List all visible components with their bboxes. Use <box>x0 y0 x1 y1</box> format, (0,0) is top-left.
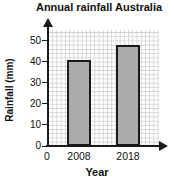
plot-area <box>48 30 159 146</box>
y-tick-label: 0 <box>13 140 41 152</box>
y-axis-arrow-icon <box>43 18 53 27</box>
bar-2008 <box>67 60 91 146</box>
y-tick-label: 10 <box>13 119 41 131</box>
x-origin-tick-label: 0 <box>40 150 54 162</box>
x-tick-label-2008: 2008 <box>59 150 99 162</box>
x-axis-label: Year <box>47 166 147 178</box>
x-tick-label-2018: 2018 <box>108 150 148 162</box>
annual-rainfall-bar-chart: Annual rainfall Australia Rainfall (mm) … <box>0 0 174 187</box>
y-tick-mark <box>42 82 47 83</box>
y-tick-mark <box>42 103 47 104</box>
y-tick-label: 50 <box>13 35 41 47</box>
y-axis-line <box>47 24 49 147</box>
x-axis-arrow-icon <box>159 141 168 151</box>
x-axis-line <box>46 145 160 147</box>
chart-title: Annual rainfall Australia <box>24 1 174 13</box>
y-tick-label: 30 <box>13 77 41 89</box>
y-tick-mark <box>42 146 47 147</box>
y-tick-label: 20 <box>13 98 41 110</box>
y-tick-mark <box>42 40 47 41</box>
y-tick-mark <box>42 124 47 125</box>
y-tick-label: 40 <box>13 56 41 68</box>
bar-2018 <box>116 45 140 146</box>
y-tick-mark <box>42 61 47 62</box>
